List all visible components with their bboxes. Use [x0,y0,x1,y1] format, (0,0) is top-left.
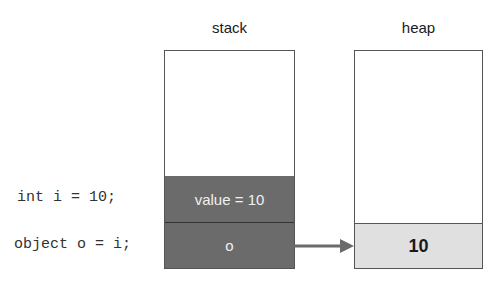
heap-cell-label: 10 [408,236,428,257]
reference-arrow-icon [294,236,364,256]
stack-cell-value: value = 10 [165,176,294,223]
stack-cell-reference: o [165,223,294,268]
code-line-int: int i = 10; [17,189,116,206]
stack-box: value = 10 o [164,50,295,269]
stack-title: stack [164,19,295,36]
code-line-object: object o = i; [14,236,131,253]
heap-box: 10 [354,50,483,269]
stack-cell-value-label: value = 10 [195,191,265,208]
heap-cell-boxed-value: 10 [355,223,482,268]
heap-title: heap [354,19,483,36]
stack-cell-reference-label: o [225,237,233,254]
